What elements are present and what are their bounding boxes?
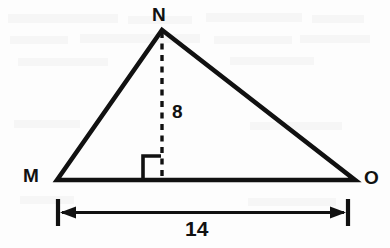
base-length-label: 14 — [185, 218, 208, 239]
triangle-figure — [0, 0, 390, 248]
dimension-arrow-right — [330, 207, 346, 219]
vertex-label-o: O — [364, 168, 379, 187]
altitude-length-label: 8 — [172, 102, 183, 121]
vertex-label-n: N — [152, 5, 166, 24]
scan-artifacts — [8, 13, 370, 206]
right-angle-marker — [143, 156, 161, 180]
triangle-outline — [57, 30, 355, 180]
triangle-path — [57, 30, 355, 180]
dimension-arrow-left — [60, 207, 76, 219]
diagram-canvas: N M O 8 14 — [0, 0, 390, 248]
vertex-label-m: M — [23, 166, 39, 185]
